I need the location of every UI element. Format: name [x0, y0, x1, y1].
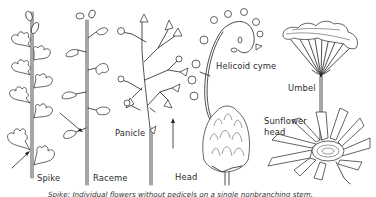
label-panicle: Panicle: [115, 129, 145, 137]
figure-caption: Spike: Individual flowers without pedice…: [48, 191, 313, 197]
label-umbel: Umbel: [288, 84, 316, 92]
raceme-illustration: [60, 9, 110, 185]
spike-illustration: [8, 10, 55, 178]
label-sunflower-head-line2: head: [264, 128, 285, 136]
label-head: Head: [175, 173, 197, 181]
head-illustration: [203, 106, 250, 185]
label-spike: Spike: [37, 174, 60, 182]
inflorescence-diagram: Spike Raceme Panicle Helicoid cyme Umbel…: [0, 0, 376, 197]
label-helicoid-cyme: Helicoid cyme: [216, 62, 276, 70]
label-raceme: Raceme: [93, 174, 127, 182]
label-sunflower-head-line1: Sunflower: [264, 117, 307, 125]
panicle-illustration: [118, 14, 189, 185]
